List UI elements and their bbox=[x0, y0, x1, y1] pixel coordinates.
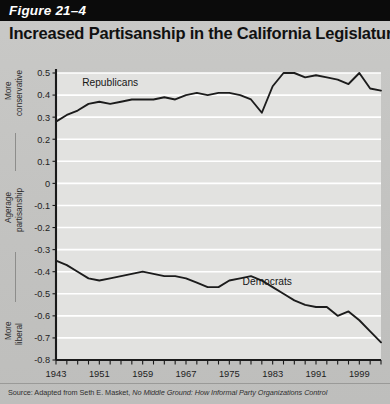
y-tick-label: -0.7 bbox=[34, 333, 50, 343]
x-tick-label: 1975 bbox=[219, 368, 240, 379]
source-note: Source: Adapted from Seth E. Masket, No … bbox=[8, 388, 386, 397]
y-tick-label: -0.3 bbox=[34, 245, 50, 255]
gridlines-group bbox=[56, 73, 381, 360]
chart-plot-area: 0.50.40.30.20.10-0.1-0.2-0.3-0.4-0.5-0.6… bbox=[0, 52, 390, 382]
series-label-republicans: Republicans bbox=[82, 77, 138, 88]
x-tick-label: 1959 bbox=[132, 368, 153, 379]
x-tick-label: 1943 bbox=[46, 368, 67, 379]
y-tick-label: 0.2 bbox=[37, 135, 50, 145]
x-tick-label: 1983 bbox=[262, 368, 283, 379]
y-tick-label: 0.1 bbox=[37, 157, 50, 167]
y-tick-label: -0.5 bbox=[34, 289, 50, 299]
y-tick-label: -0.6 bbox=[34, 311, 50, 321]
y-tick-label: 0 bbox=[45, 179, 50, 189]
source-prefix: Source: Adapted from Seth E. Masket, bbox=[8, 388, 132, 397]
footer-divider bbox=[0, 383, 390, 384]
plot-background-group bbox=[56, 73, 381, 360]
y-tick-label: 0.5 bbox=[37, 68, 50, 78]
y-tick-label: 0.3 bbox=[37, 113, 50, 123]
y-tick-label: -0.4 bbox=[34, 267, 50, 277]
x-tick-label: 1991 bbox=[306, 368, 327, 379]
figure-number-band: Figure 21–4 bbox=[0, 0, 390, 21]
figure-number-label: Figure 21–4 bbox=[0, 3, 86, 18]
x-tick-label: 1951 bbox=[89, 368, 110, 379]
x-tick-label: 1999 bbox=[349, 368, 370, 379]
y-tick-label: 0.4 bbox=[37, 90, 50, 100]
y-tick-label: -0.2 bbox=[34, 223, 50, 233]
x-tick-labels-group: 19431951195919671975198319911999 bbox=[46, 360, 381, 379]
page-title: Increased Partisanship in the California… bbox=[9, 24, 385, 43]
series-label-democrats: Democrats bbox=[243, 276, 292, 287]
figure-container: Figure 21–4 Increased Partisanship in th… bbox=[0, 0, 390, 404]
partisanship-line-chart: 0.50.40.30.20.10-0.1-0.2-0.3-0.4-0.5-0.6… bbox=[0, 52, 390, 382]
y-tick-label: -0.8 bbox=[34, 355, 50, 365]
y-tick-labels-group: 0.50.40.30.20.10-0.1-0.2-0.3-0.4-0.5-0.6… bbox=[34, 68, 50, 365]
x-tick-label: 1967 bbox=[176, 368, 197, 379]
y-tick-label: -0.1 bbox=[34, 201, 50, 211]
source-title: No Middle Ground: How Informal Party Org… bbox=[132, 388, 327, 397]
